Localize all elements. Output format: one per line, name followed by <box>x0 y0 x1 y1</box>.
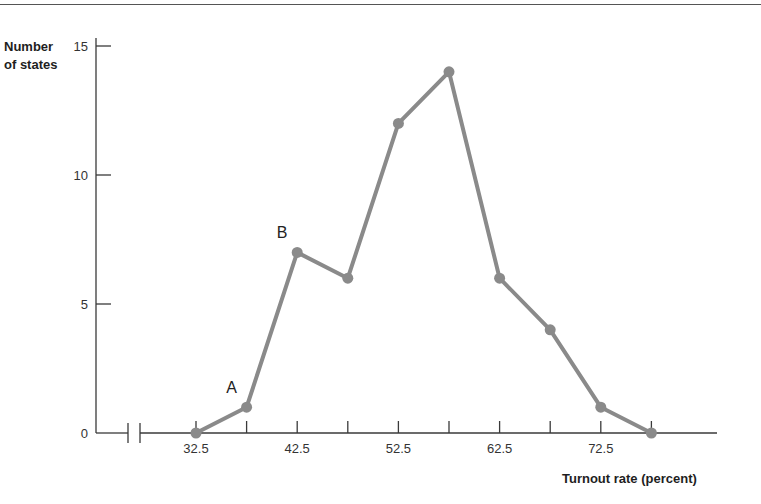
data-point-marker <box>393 118 404 129</box>
annotation-label-b: B <box>277 224 288 241</box>
x-tick-label: 62.5 <box>487 441 512 456</box>
axes: 05101532.542.552.562.572.5 <box>74 38 717 456</box>
x-tick-label: 72.5 <box>588 441 613 456</box>
x-tick-label: 32.5 <box>183 441 208 456</box>
y-tick-label: 10 <box>74 168 88 183</box>
data-point-marker <box>342 273 353 284</box>
data-point-marker <box>292 247 303 258</box>
data-point-marker <box>191 428 202 439</box>
data-point-marker <box>494 273 505 284</box>
data-point-marker <box>545 324 556 335</box>
annotation-label-a: A <box>226 379 237 396</box>
data-series <box>191 66 657 438</box>
data-point-marker <box>595 402 606 413</box>
y-tick-label: 5 <box>81 297 88 312</box>
y-tick-label: 0 <box>81 426 88 441</box>
x-tick-label: 42.5 <box>285 441 310 456</box>
x-tick-label: 52.5 <box>386 441 411 456</box>
data-line <box>196 72 651 433</box>
line-chart: 05101532.542.552.562.572.5 AB <box>0 0 761 504</box>
data-point-marker <box>444 66 455 77</box>
data-point-marker <box>241 402 252 413</box>
data-point-marker <box>646 428 657 439</box>
y-tick-label: 15 <box>74 39 88 54</box>
